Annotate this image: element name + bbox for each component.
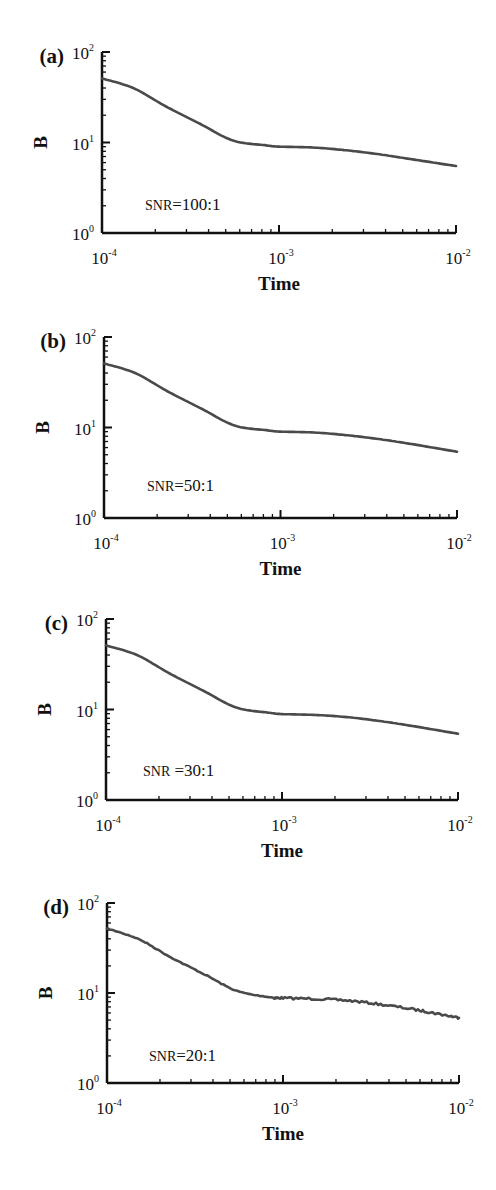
x-tick-label: 10-4 [96, 1097, 121, 1118]
y-axis-title: B [35, 986, 56, 999]
snr-value: =20:1 [176, 1046, 216, 1065]
y-tick-label: 101 [74, 418, 96, 439]
data-curve [107, 929, 459, 1019]
panel-label: (d) [43, 895, 69, 919]
snr-prefix: SNR [149, 1049, 177, 1064]
y-tick-label: 100 [74, 508, 96, 529]
y-tick-label: 100 [76, 790, 98, 811]
snr-annotation: SNR=100:1 [145, 195, 221, 214]
snr-value: =50:1 [174, 476, 214, 495]
snr-prefix: SNR [143, 764, 171, 779]
x-tick-label: 10-3 [270, 532, 295, 553]
data-curve [104, 364, 457, 452]
x-axis-title: Time [260, 558, 302, 579]
x-axis-title: Time [262, 1123, 304, 1144]
y-tick-label: 102 [77, 893, 99, 914]
y-tick-label: 101 [72, 133, 94, 154]
snr-annotation: SNR =30:1 [143, 761, 214, 780]
panel-label: (b) [40, 329, 66, 353]
y-axis-title: B [30, 136, 51, 149]
x-tick-label: 10-2 [445, 247, 470, 268]
panel-label: (a) [40, 44, 65, 68]
x-tick-label: 10-4 [93, 532, 118, 553]
y-tick-label: 101 [77, 983, 99, 1004]
chart-panel-d: 10010110210-410-310-2(d)BTimeSNR=20:1 [35, 893, 474, 1144]
x-tick-label: 10-2 [446, 532, 471, 553]
x-tick-label: 10-3 [268, 247, 293, 268]
y-tick-label: 100 [77, 1073, 99, 1094]
data-curve [106, 646, 458, 734]
chart-panel-c: 10010110210-410-310-2(c)BTimeSNR =30:1 [34, 609, 473, 861]
x-tick-label: 10-3 [271, 814, 296, 835]
x-axis-title: Time [258, 273, 300, 294]
snr-prefix: SNR [147, 479, 175, 494]
y-tick-label: 102 [76, 609, 98, 630]
x-tick-label: 10-2 [447, 814, 472, 835]
y-axis-title: B [32, 421, 53, 434]
figure: 10010110210-410-310-2(a)BTimeSNR=100:110… [0, 0, 496, 1190]
chart-panel-b: 10010110210-410-310-2(b)BTimeSNR=50:1 [32, 327, 472, 579]
snr-annotation: SNR=50:1 [147, 476, 214, 495]
y-tick-label: 101 [76, 700, 98, 721]
x-tick-label: 10-4 [95, 814, 120, 835]
snr-value: =30:1 [170, 761, 214, 780]
x-tick-label: 10-3 [272, 1097, 297, 1118]
snr-prefix: SNR [145, 198, 173, 213]
y-tick-label: 102 [72, 42, 94, 63]
data-curve [102, 79, 456, 167]
chart-panel-a: 10010110210-410-310-2(a)BTimeSNR=100:1 [30, 42, 471, 294]
x-tick-label: 10-2 [448, 1097, 473, 1118]
panel-label: (c) [45, 611, 68, 635]
x-tick-label: 10-4 [91, 247, 116, 268]
snr-value: =100:1 [172, 195, 220, 214]
snr-annotation: SNR=20:1 [149, 1046, 216, 1065]
y-tick-label: 102 [74, 327, 96, 348]
y-axis-title: B [34, 703, 55, 716]
y-tick-label: 100 [72, 223, 94, 244]
x-axis-title: Time [261, 840, 303, 861]
